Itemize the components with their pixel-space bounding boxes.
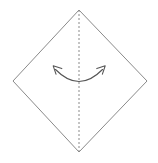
fold-diagram-canvas	[0, 0, 158, 163]
origami-fold-diagram	[0, 0, 158, 163]
